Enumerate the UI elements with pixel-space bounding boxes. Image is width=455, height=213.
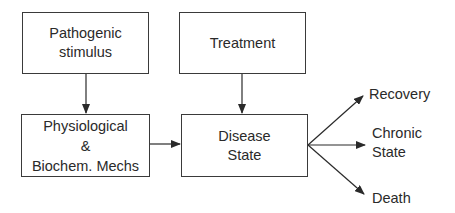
outcome-chronic-state: Chronic State (372, 124, 422, 162)
node-label: & (81, 136, 91, 156)
arrow-disease-to-death (308, 145, 364, 194)
node-label: stimulus (59, 43, 112, 62)
node-label: Biochem. Mechs (32, 156, 139, 176)
node-label: Treatment (210, 34, 276, 53)
outcome-label: Chronic (372, 124, 422, 143)
node-pathogenic-stimulus: Pathogenic stimulus (22, 12, 149, 74)
node-label: Disease (218, 127, 270, 146)
outcome-label: State (372, 143, 422, 162)
outcome-death: Death (372, 189, 411, 208)
arrow-disease-to-recovery (308, 96, 363, 145)
node-label: Physiological (43, 116, 128, 136)
node-disease-state: Disease State (181, 114, 308, 177)
node-label: State (228, 146, 262, 165)
node-mechanisms: Physiological & Biochem. Mechs (21, 114, 150, 177)
node-label: Pathogenic (49, 24, 122, 43)
outcome-recovery: Recovery (369, 85, 430, 104)
node-treatment: Treatment (179, 12, 306, 74)
